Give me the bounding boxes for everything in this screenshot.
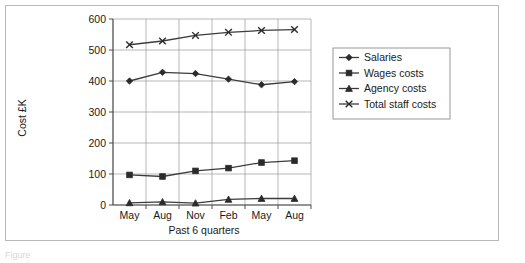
diamond-marker [225, 76, 231, 82]
figure-caption-text: Figure [5, 248, 305, 262]
y-tick-label: 400 [88, 75, 106, 87]
line-chart: 0100200300400500600 MayAugNovFebMayAug C… [6, 6, 498, 240]
square-marker [193, 168, 199, 174]
square-marker [259, 160, 265, 166]
y-tick-label: 200 [88, 137, 106, 149]
diamond-marker [258, 82, 264, 88]
x-tick-label: Nov [186, 209, 205, 221]
legend-label: Agency costs [364, 82, 426, 94]
square-marker [127, 172, 133, 178]
y-tick-label: 100 [88, 168, 106, 180]
x-tick-label: Aug [153, 209, 172, 221]
legend-label: Wages costs [364, 67, 424, 79]
gridlines [113, 19, 311, 205]
x-axis-title: Past 6 quarters [168, 224, 239, 236]
x-tick-label: May [120, 209, 141, 221]
y-tick-label: 500 [88, 44, 106, 56]
x-tick-label: Aug [285, 209, 304, 221]
square-marker [160, 174, 166, 180]
x-tick-label: Feb [219, 209, 237, 221]
square-marker [292, 158, 298, 164]
diamond-marker [126, 78, 132, 84]
legend-label: Total staff costs [364, 98, 436, 110]
figure-frame: 0100200300400500600 MayAugNovFebMayAug C… [5, 5, 499, 241]
figure-root: 0100200300400500600 MayAugNovFebMayAug C… [0, 0, 525, 263]
legend-label: Salaries [364, 51, 402, 63]
diamond-marker [291, 78, 297, 84]
square-marker [346, 70, 352, 76]
diamond-marker [159, 69, 165, 75]
x-axis-tick-labels: MayAugNovFebMayAug [120, 205, 311, 221]
legend: SalariesWages costsAgency costsTotal sta… [333, 48, 450, 119]
y-tick-label: 600 [88, 13, 106, 25]
y-tick-label: 0 [100, 199, 106, 211]
y-tick-label: 300 [88, 106, 106, 118]
y-axis-tick-labels: 0100200300400500600 [88, 13, 113, 211]
x-tick-label: May [252, 209, 273, 221]
square-marker [226, 165, 232, 171]
diamond-marker [192, 70, 198, 76]
y-axis-title: Cost £K [16, 99, 28, 136]
figure-caption: Figure [5, 248, 305, 262]
